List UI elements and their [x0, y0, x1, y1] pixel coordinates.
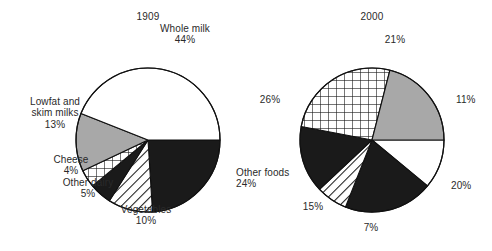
label-pct-15: 15% — [253, 201, 373, 213]
chart-title-2000: 2000 — [312, 11, 432, 22]
label-pct-7: 7% — [311, 222, 431, 234]
label-pct-26: 26% — [210, 94, 330, 106]
label-whole-milk: Whole milk 44% — [125, 23, 245, 46]
label-vegetables: Vegetables 10% — [86, 204, 206, 227]
label-lowfat: Lowfat and skim milks 13% — [0, 96, 115, 131]
label-pct-20: 20% — [451, 180, 492, 192]
label-pct-11: 11% — [456, 94, 492, 106]
label-other-dairy: Other dairy 5% — [28, 177, 148, 200]
figure-canvas: 1909 2000 Whole milk 44%Other foods 24%V… — [0, 0, 492, 251]
chart-title-1909: 1909 — [88, 11, 208, 22]
pie-1909-slice-0[interactable] — [148, 140, 220, 212]
label-pct-21: 21% — [335, 34, 455, 46]
label-other-foods: Other foods 24% — [236, 167, 356, 190]
pie-2000-slices — [300, 68, 444, 212]
label-cheese: Cheese 4% — [11, 154, 131, 177]
